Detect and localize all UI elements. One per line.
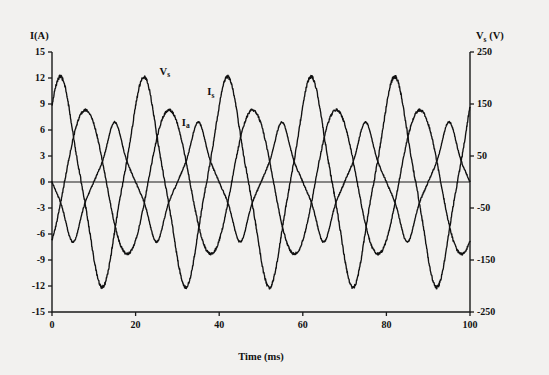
right-tick-label: 50 (477, 150, 487, 161)
left-tick-label: 3 (40, 150, 45, 161)
left-tick-label: 6 (40, 124, 45, 135)
left-tick-label: -9 (37, 254, 45, 265)
chart-figure: 15129630-3-6-9-12-15 25015050-50-150-250… (0, 0, 549, 375)
x-tick-label: 80 (381, 319, 391, 330)
series-annotations: VsIsIa (160, 66, 215, 131)
right-tick-label: -50 (477, 202, 490, 213)
left-tick-label: 0 (40, 176, 45, 187)
right-tick-label: -250 (477, 306, 495, 317)
x-tick-label: 0 (50, 319, 55, 330)
left-tick-label: -6 (37, 228, 45, 239)
series-label-subscript: s (211, 91, 214, 100)
left-tick-label: 12 (35, 72, 45, 83)
x-axis-ticks: 020406080100 (50, 312, 478, 330)
right-tick-label: 250 (477, 46, 492, 57)
series-label-Vs: Vs (160, 66, 171, 80)
x-tick-label: 20 (131, 319, 141, 330)
right-axis-title-units: (V) (487, 30, 505, 42)
right-tick-label: 150 (477, 98, 492, 109)
x-tick-label: 100 (463, 319, 478, 330)
x-tick-label: 40 (214, 319, 224, 330)
x-tick-label: 60 (298, 319, 308, 330)
series-label-Is: Is (207, 86, 214, 100)
svg-text:Is: Is (207, 86, 214, 100)
left-tick-label: -3 (37, 202, 45, 213)
series-label-subscript: a (186, 121, 190, 130)
svg-text:Vs: Vs (160, 66, 171, 80)
right-tick-label: -150 (477, 254, 495, 265)
left-axis-title: I(A) (30, 30, 49, 42)
left-axis-ticks: 15129630-3-6-9-12-15 (32, 46, 52, 317)
right-axis-title: Vs (V) (476, 30, 504, 44)
svg-text:Ia: Ia (182, 117, 190, 130)
left-tick-label: 9 (40, 98, 45, 109)
waveform-chart: 15129630-3-6-9-12-15 25015050-50-150-250… (0, 0, 549, 375)
x-axis-title: Time (ms) (238, 351, 284, 363)
left-tick-label: -12 (32, 280, 45, 291)
left-tick-label: 15 (35, 46, 45, 57)
left-tick-label: -15 (32, 306, 45, 317)
series-label-subscript: s (167, 70, 170, 79)
right-axis-ticks: 25015050-50-150-250 (470, 46, 495, 317)
series-label-Ia: Ia (182, 117, 190, 130)
